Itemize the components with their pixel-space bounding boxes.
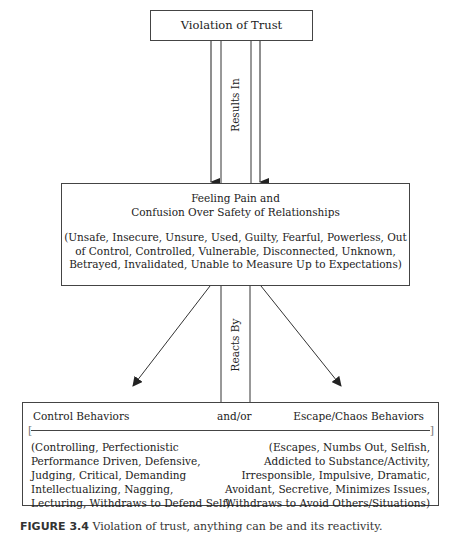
and-or-label: and/or [217, 409, 252, 423]
escape-behaviors-list: (Escapes, Numbs Out, Selfish, Addicted t… [225, 440, 430, 510]
right-bracket: ] [430, 424, 434, 438]
feeling-pain-title-line2: Confusion Over Safety of Relationships [62, 206, 409, 220]
escape-chaos-behaviors-heading: Escape/Chaos Behaviors [293, 409, 424, 423]
arrow-to-escape [261, 286, 341, 386]
figure-caption-text: Violation of trust, anything can be and … [92, 520, 382, 533]
feeling-pain-description: (Unsafe, Insecure, Unsure, Used, Guilty,… [62, 231, 409, 272]
figure-label: FIGURE 3.4 [20, 520, 89, 533]
control-behaviors-list: (Controlling, Perfectionistic Performanc… [31, 440, 230, 510]
violation-of-trust-box: Violation of Trust [150, 10, 313, 41]
control-behaviors-heading: Control Behaviors [33, 409, 129, 423]
results-in-label: Results In [229, 75, 243, 135]
feeling-pain-box: Feeling Pain and Confusion Over Safety o… [61, 183, 410, 286]
violation-of-trust-label: Violation of Trust [181, 18, 282, 32]
figure-caption: FIGURE 3.4 Violation of trust, anything … [20, 520, 382, 533]
behaviors-box: Control Behaviors and/or Escape/Chaos Be… [22, 402, 439, 506]
behaviors-divider [31, 430, 430, 431]
reacts-by-label: Reacts By [229, 315, 243, 375]
arrow-to-control [133, 286, 210, 386]
feeling-pain-title-line1: Feeling Pain and [62, 192, 409, 206]
left-bracket: [ [28, 424, 32, 438]
